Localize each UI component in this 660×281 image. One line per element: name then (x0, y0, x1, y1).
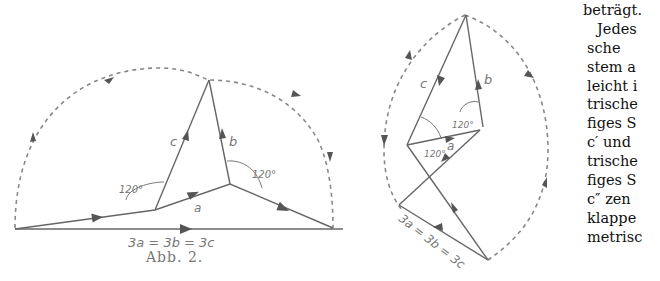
label-b: b (484, 72, 492, 87)
figure-abb-2: 120° 120° c b a 3a = 3b = 3c 120° 120° (0, 0, 590, 281)
text-line: c′ und (587, 133, 660, 152)
vector-arrow-icon (182, 130, 189, 141)
vector-arrow-icon (91, 212, 103, 222)
arc-arrow-icon (405, 50, 412, 60)
text-column: beträgt. Jedes sche stem a leicht i tris… (587, 1, 660, 247)
text-line: metrisc (587, 228, 660, 247)
sum-label: 3a = 3b = 3c (128, 235, 215, 250)
angle-arc (421, 117, 441, 138)
text-line: trische (587, 152, 660, 171)
arc-arrow-icon (104, 77, 114, 84)
text-line: Jedes (587, 20, 660, 39)
text-line: beträgt. (583, 1, 660, 20)
left-angle-label: 120° (424, 149, 446, 159)
arc-arrow-icon (30, 132, 36, 142)
vector-c (155, 80, 209, 210)
label-c: c (170, 134, 177, 149)
vector-a-return (399, 130, 480, 205)
baseline-arrow-icon (180, 224, 192, 234)
right-angle-label: 120° (252, 169, 276, 180)
label-b: b (229, 134, 237, 149)
vector-arrow-icon (276, 202, 290, 215)
arc-arrow-icon (542, 177, 547, 188)
top-angle-label: 120° (452, 120, 474, 130)
label-a: a (194, 201, 201, 215)
text-line: sche (587, 39, 660, 58)
label-c: c (420, 76, 427, 91)
text-line: klappe (587, 209, 660, 228)
text-line: leicht i (587, 77, 660, 96)
text-line: figes S (587, 114, 660, 133)
vector-b (209, 80, 230, 184)
left-angle-label: 120° (119, 184, 143, 195)
arc-arrow-icon (327, 152, 333, 162)
angle-arc (460, 101, 478, 112)
arc-arrow-icon (524, 70, 534, 78)
vector-arrow-icon (437, 75, 445, 86)
vector-a (407, 130, 480, 145)
right-vector-diagram: 120° 120° c b a 3a = 3b = 3c (381, 15, 548, 272)
text-line: stem a (587, 58, 660, 77)
vector-arrow-icon (451, 202, 458, 213)
arc-arrow-icon (291, 90, 301, 97)
diag-line (407, 145, 488, 260)
figure-caption: Abb. 2. (146, 249, 203, 265)
vector-a (15, 184, 333, 229)
text-line: trische (587, 95, 660, 114)
text-line: c″ zen (587, 190, 660, 209)
text-line: figes S (587, 171, 660, 190)
left-vector-diagram: 120° 120° c b a 3a = 3b = 3c (15, 68, 343, 250)
label-a: a (447, 139, 454, 153)
arc-arrow-icon (381, 135, 388, 146)
vector-b (466, 15, 483, 127)
right-dashed-arc-right (465, 15, 548, 260)
